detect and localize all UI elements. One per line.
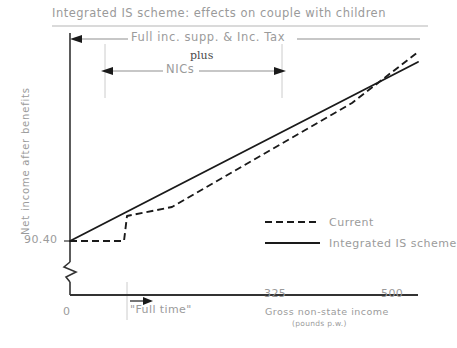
axes xyxy=(64,33,418,295)
x-axis-tick-label-0: 0 xyxy=(63,306,71,317)
legend-label-current: Current xyxy=(329,217,374,228)
x-axis-tick-label-500: 500 xyxy=(381,288,403,299)
x-axis-tick-label-325: 325 xyxy=(264,288,286,299)
annotation-label-plus: plus xyxy=(190,50,213,61)
annotation-label-nics: NICs xyxy=(166,64,194,76)
x-axis-title: Gross non-state income xyxy=(265,307,389,317)
annotation-label-full-inc-supp: Full inc. supp. & Inc. Tax xyxy=(131,32,285,44)
guide-lines xyxy=(105,44,282,320)
x-axis-units: (pounds p.w.) xyxy=(292,320,347,328)
y-axis-tick-label-9040: 90.40 xyxy=(24,234,58,245)
chart-title: Integrated IS scheme: effects on couple … xyxy=(52,8,386,20)
annotation-label-full-time: "Full time" xyxy=(130,304,192,315)
legend-label-integrated-is-scheme: Integrated IS scheme xyxy=(329,238,457,249)
series-integrated-is-scheme xyxy=(70,62,418,241)
series-current xyxy=(70,52,418,241)
y-axis-title: Net income after benefits xyxy=(21,95,31,235)
